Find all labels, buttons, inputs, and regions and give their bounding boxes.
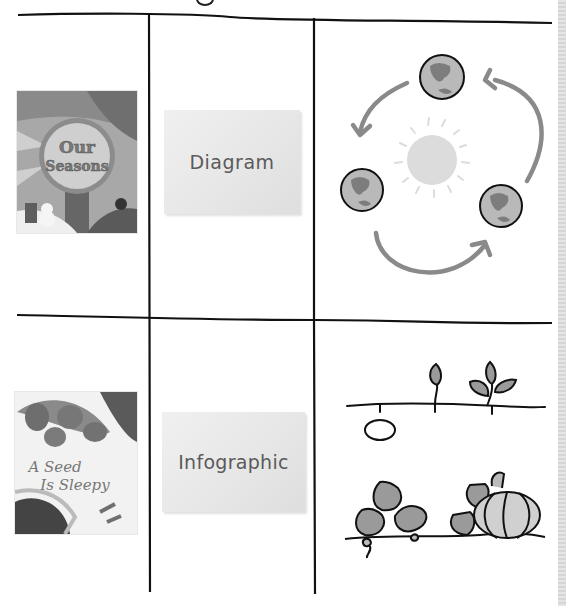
earth-left-icon xyxy=(341,169,383,211)
book-art-our-seasons: Our Seasons xyxy=(17,91,137,233)
orbit-diagram xyxy=(320,40,560,300)
seedling-icon xyxy=(470,362,516,406)
label-card-diagram: Diagram xyxy=(164,110,300,214)
seed-icon xyxy=(365,420,395,440)
card-label: Diagram xyxy=(189,151,274,173)
book-cover-a-seed-is-sleepy: A Seed Is Sleepy xyxy=(15,392,137,534)
earth-top-icon xyxy=(420,55,464,99)
book-art-seed: A Seed Is Sleepy xyxy=(15,392,137,534)
earth-right-icon xyxy=(480,185,522,227)
vine-tendril xyxy=(363,539,371,558)
card-label: Infographic xyxy=(178,451,289,473)
arrow-left-to-right xyxy=(376,233,485,272)
book-title-line2: Is Sleepy xyxy=(39,476,110,494)
book-title-line1: A Seed xyxy=(26,458,81,476)
sprout-icon xyxy=(430,364,441,404)
arrow-right-to-top xyxy=(495,80,542,181)
pumpkin-leaves-left xyxy=(356,482,426,535)
book-cover-our-seasons: Our Seasons xyxy=(17,91,137,233)
ground-line xyxy=(347,404,545,408)
sun-icon xyxy=(395,118,469,197)
book-title-line2: Seasons xyxy=(45,158,108,174)
seed-growth-infographic xyxy=(320,340,560,560)
pumpkin-icon xyxy=(474,473,540,538)
arrow-top-to-left xyxy=(360,83,407,132)
label-card-infographic: Infographic xyxy=(162,412,305,512)
book-title-line1: Our xyxy=(59,137,96,157)
